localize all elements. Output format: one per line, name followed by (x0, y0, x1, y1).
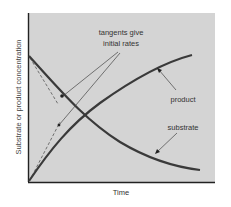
y-axis-label: Substrate or product concentration (14, 39, 23, 154)
x-axis-label: Time (113, 188, 129, 197)
tangent-arrowhead-1 (60, 94, 64, 98)
substrate-label: substrate (168, 123, 199, 132)
tangents-label-line1: tangents give (99, 28, 144, 37)
reaction-progress-diagram: tangents give initial rates product subs… (0, 0, 231, 207)
tangent-arrowhead-2 (58, 124, 61, 127)
product-label: product (170, 95, 196, 104)
tangents-label-line2: initial rates (103, 39, 139, 48)
